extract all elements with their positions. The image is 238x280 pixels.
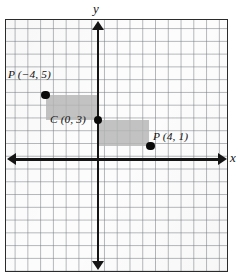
point-p-negative4-5 <box>41 91 49 99</box>
x-axis-right-arrow-icon <box>218 153 227 165</box>
x-axis-line <box>14 158 221 160</box>
point-label-c-0-3: C (0, 3) <box>50 113 86 125</box>
x-axis-label: x <box>230 150 236 166</box>
y-axis-up-arrow-icon <box>92 21 104 30</box>
graph-paper-grid: P (−4, 5) C (0, 3) P (4, 1) <box>5 19 228 272</box>
y-axis-label: y <box>93 1 99 17</box>
point-p-4-1 <box>146 142 154 150</box>
point-label-p-negative4-5: P (−4, 5) <box>8 68 51 80</box>
y-axis-down-arrow-icon <box>92 261 104 270</box>
x-axis-left-arrow-icon <box>7 153 16 165</box>
point-label-p-4-1: P (4, 1) <box>153 130 188 142</box>
y-axis-line <box>97 29 99 264</box>
coordinate-plane-figure: P (−4, 5) C (0, 3) P (4, 1) y x <box>0 0 238 280</box>
shaded-region-lower-right <box>98 120 149 146</box>
